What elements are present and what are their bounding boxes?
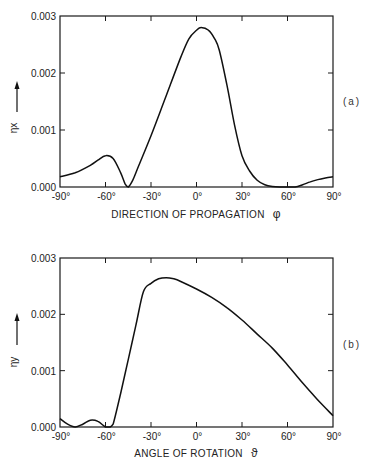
x-tick-label: 30° — [235, 191, 250, 202]
plot-frame-b — [60, 258, 333, 427]
y-tick-label: 0.000 — [31, 422, 56, 433]
x-tick-label: 0° — [193, 431, 203, 442]
x-tick-label: 60° — [281, 191, 296, 202]
y-axis-label-a: ηx — [8, 81, 20, 133]
x-tick-label: -30° — [143, 191, 161, 202]
x-axis-title-a: DIRECTION OF PROPAGATIONφ — [111, 207, 281, 221]
y-tick-label: 0.003 — [31, 11, 56, 22]
x-tick-label: 0° — [193, 191, 203, 202]
y-tick-label: 0.003 — [31, 253, 56, 264]
y-ticks-b: 0.0000.0010.0020.003 — [31, 253, 333, 433]
x-axis-title-b: ANGLE OF ROTATIONϑ — [134, 446, 258, 460]
figure: -90°-60°-30°0°30°60°90° 0.0000.0010.0020… — [0, 0, 366, 475]
arrowhead-icon — [15, 313, 20, 321]
y-tick-label: 0.001 — [31, 366, 56, 377]
y-axis-label-b: ηy — [8, 313, 20, 367]
y-ticks-a: 0.0000.0010.0020.003 — [31, 11, 333, 193]
x-ticks-a: -90°-60°-30°0°30°60°90° — [52, 16, 342, 202]
x-ticks-b: -90°-60°-30°0°30°60°90° — [52, 258, 342, 442]
x-tick-label: 90° — [326, 191, 341, 202]
y-axis-title-a: ηx — [8, 123, 19, 134]
curve-eta-y — [60, 278, 333, 427]
y-tick-label: 0.001 — [31, 125, 56, 136]
chart-b: -90°-60°-30°0°30°60°90° 0.0000.0010.0020… — [8, 253, 361, 460]
x-tick-label: -30° — [143, 431, 161, 442]
plot-frame-a — [60, 16, 333, 187]
y-axis-title-b: ηy — [8, 357, 19, 368]
arrowhead-icon — [15, 81, 20, 89]
panel-label-a: (a) — [343, 96, 361, 107]
x-tick-label: 30° — [235, 431, 250, 442]
curve-eta-x — [60, 27, 333, 187]
y-tick-label: 0.002 — [31, 68, 56, 79]
y-tick-label: 0.002 — [31, 309, 56, 320]
y-tick-label: 0.000 — [31, 182, 56, 193]
x-tick-label: -60° — [97, 191, 115, 202]
panel-label-b: (b) — [343, 339, 361, 350]
x-tick-label: -60° — [97, 431, 115, 442]
chart-a: -90°-60°-30°0°30°60°90° 0.0000.0010.0020… — [8, 11, 361, 221]
x-tick-label: 60° — [281, 431, 296, 442]
x-tick-label: 90° — [326, 431, 341, 442]
